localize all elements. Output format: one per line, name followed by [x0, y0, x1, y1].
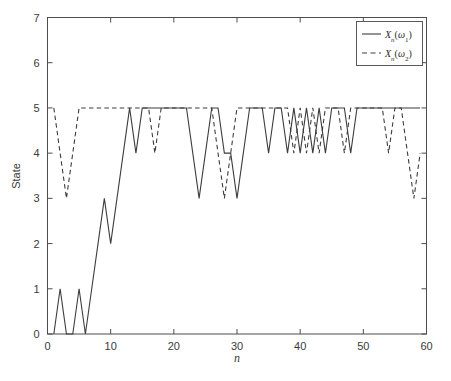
- chart-svg: 01234567 0102030405060 State n Xn(ω1) Xn…: [0, 0, 451, 381]
- y-tick-label: 5: [33, 102, 39, 114]
- x-tick-label: 0: [44, 340, 50, 352]
- y-tick-label: 0: [33, 328, 39, 340]
- y-tick-label: 6: [33, 57, 39, 69]
- y-tick-label: 2: [33, 238, 39, 250]
- series-line-x-omega-1: [54, 108, 420, 334]
- y-axis-title: State: [10, 163, 22, 189]
- x-tick-label: 40: [294, 340, 306, 352]
- y-tick-label: 7: [33, 12, 39, 24]
- x-tick-label: 10: [105, 340, 117, 352]
- y-tick-label: 1: [33, 283, 39, 295]
- x-tick-label: 50: [357, 340, 369, 352]
- x-tick-label: 20: [168, 340, 180, 352]
- chart-legend[interactable]: Xn(ω1) Xn(ω2): [357, 22, 423, 66]
- x-axis-title: n: [234, 351, 240, 365]
- y-tick-label: 3: [33, 192, 39, 204]
- series-line-x-omega-2: [54, 108, 420, 198]
- y-tick-label: 4: [33, 147, 39, 159]
- chart-figure: 01234567 0102030405060 State n Xn(ω1) Xn…: [0, 0, 451, 381]
- data-series-group: [54, 108, 420, 334]
- x-tick-label: 60: [420, 340, 432, 352]
